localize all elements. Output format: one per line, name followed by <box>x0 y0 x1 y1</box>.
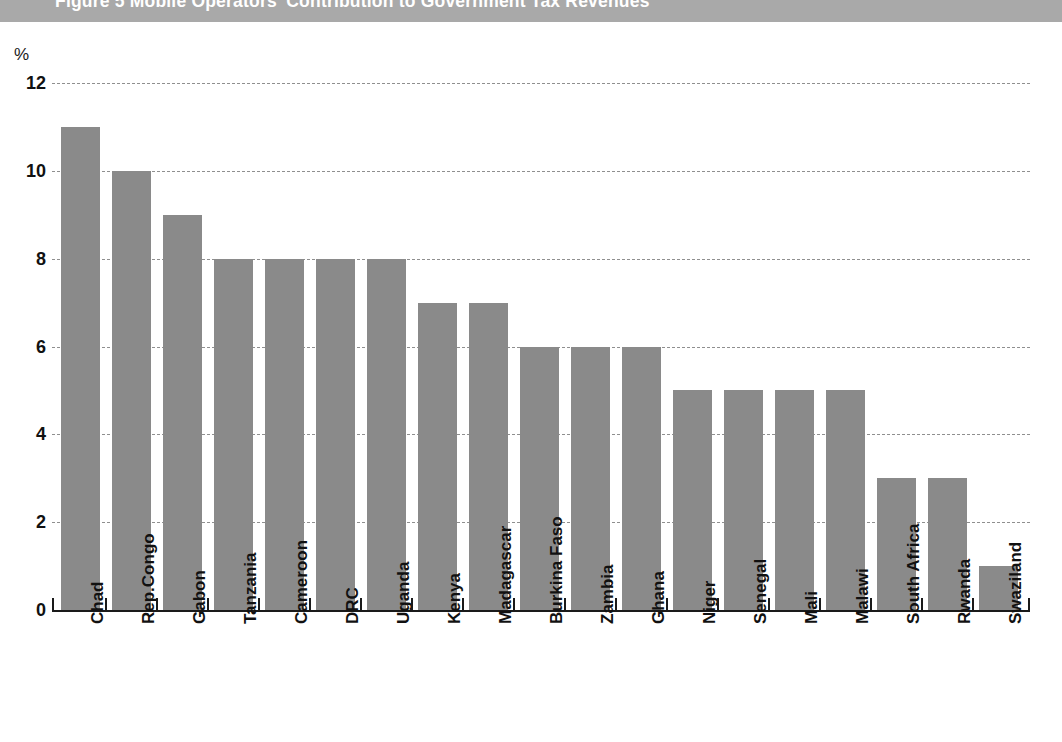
y-axis-tick-label: 8 <box>0 248 46 269</box>
x-axis-tick <box>768 598 770 611</box>
x-axis-category-label: Malawi <box>853 568 873 624</box>
x-axis-tick <box>105 598 107 611</box>
bar[interactable] <box>418 303 457 610</box>
figure-title-band: Figure 5 Mobile Operators' Contribution … <box>0 0 1062 22</box>
x-axis-tick <box>360 598 362 611</box>
bar[interactable] <box>316 259 355 610</box>
y-axis-tick-label: 10 <box>0 160 46 181</box>
x-axis-category-label: Uganda <box>394 562 414 624</box>
x-axis-tick <box>258 598 260 611</box>
x-axis-tick <box>513 598 515 611</box>
y-axis-tick-label: 2 <box>0 512 46 533</box>
x-axis-category-label: Senegal <box>751 559 771 624</box>
y-axis-tick-label: 12 <box>0 73 46 94</box>
x-axis-tick <box>564 598 566 611</box>
x-axis-tick <box>717 598 719 611</box>
bar-chart: % 024681012ChadRep.CongoGabonTanzaniaCam… <box>0 22 1062 742</box>
y-axis-tick-label: 4 <box>0 424 46 445</box>
x-axis-tick <box>207 598 209 611</box>
bar[interactable] <box>673 390 712 610</box>
y-axis-tick-label: 0 <box>0 600 46 621</box>
x-axis-right-cap <box>1028 598 1030 611</box>
x-axis-tick <box>921 598 923 611</box>
bar[interactable] <box>367 259 406 610</box>
x-axis-category-label: Rwanda <box>955 559 975 624</box>
x-axis-tick <box>309 598 311 611</box>
x-axis-tick <box>870 598 872 611</box>
x-axis-tick <box>819 598 821 611</box>
plot-area: 024681012ChadRep.CongoGabonTanzaniaCamer… <box>0 22 1062 742</box>
x-axis-category-label: Tanzania <box>241 553 261 624</box>
x-axis-tick <box>666 598 668 611</box>
gridline <box>52 171 1030 172</box>
gridline <box>52 83 1030 84</box>
x-axis-category-label: Zambia <box>598 564 618 624</box>
x-axis-tick <box>462 598 464 611</box>
bar[interactable] <box>163 215 202 610</box>
x-axis-left-cap <box>52 598 54 611</box>
x-axis-category-label: Swaziland <box>1006 542 1026 624</box>
bar[interactable] <box>775 390 814 610</box>
x-axis-tick <box>615 598 617 611</box>
y-axis-tick-label: 6 <box>0 336 46 357</box>
figure-title: Figure 5 Mobile Operators' Contribution … <box>55 0 650 12</box>
x-axis-tick <box>156 598 158 611</box>
bar[interactable] <box>61 127 100 610</box>
x-axis-tick <box>411 598 413 611</box>
x-axis-category-label: Cameroon <box>292 540 312 624</box>
x-axis-tick <box>972 598 974 611</box>
